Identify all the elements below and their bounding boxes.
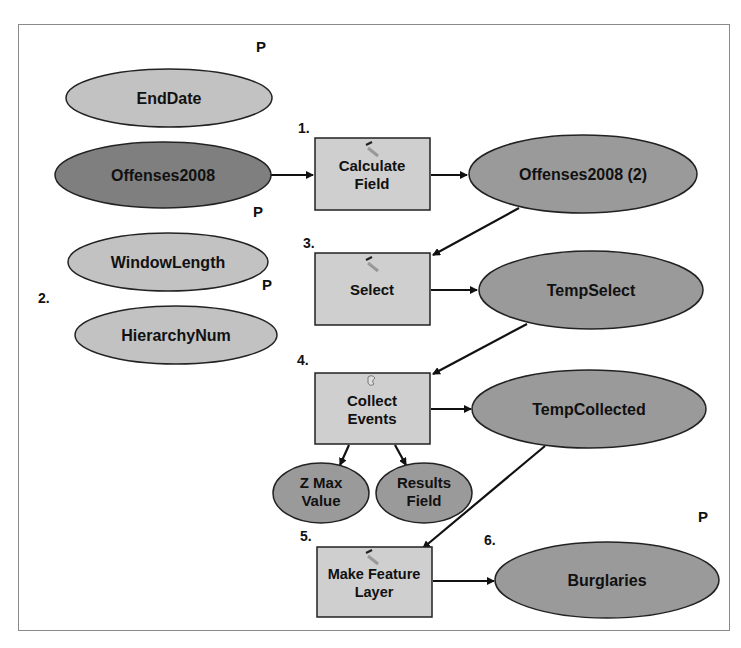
edge-collect-to-zmax <box>340 445 349 465</box>
tool-label-line2: Layer <box>355 584 394 600</box>
tool-make-feature-layer[interactable]: Make Feature Layer <box>317 547 432 617</box>
node-offenses2008[interactable]: Offenses2008 <box>55 142 271 208</box>
edge-tempselect-to-collect <box>433 324 527 374</box>
node-label: TempSelect <box>547 282 636 299</box>
node-label-line1: Results <box>397 474 451 491</box>
step-label-4: 4. <box>297 352 309 368</box>
node-temp-collected[interactable]: TempCollected <box>472 370 706 448</box>
edge-offenses2-to-select <box>433 208 519 255</box>
node-hierarchy-num[interactable]: HierarchyNum <box>75 306 277 364</box>
node-window-length[interactable]: WindowLength <box>68 233 268 291</box>
node-label: HierarchyNum <box>121 327 230 344</box>
step-label-3: 3. <box>303 235 315 251</box>
node-burglaries[interactable]: Burglaries <box>495 542 719 618</box>
step-label-2: 2. <box>38 290 50 306</box>
node-label: Offenses2008 <box>111 167 215 184</box>
parameter-marker-burglaries: P <box>698 508 708 525</box>
node-results-field[interactable]: Results Field <box>376 463 472 523</box>
step-label-1: 1. <box>298 120 310 136</box>
tool-select[interactable]: Select <box>315 253 430 325</box>
tool-label-line2: Events <box>347 410 396 427</box>
tool-label-line2: Field <box>354 175 389 192</box>
node-z-max-value[interactable]: Z Max Value <box>273 463 369 523</box>
node-label: EndDate <box>137 90 202 107</box>
node-offenses2008-2[interactable]: Offenses2008 (2) <box>469 135 697 213</box>
parameter-marker-offenses2008: P <box>253 203 263 220</box>
node-end-date[interactable]: EndDate <box>66 69 272 127</box>
tool-label-line1: Collect <box>347 392 397 409</box>
parameter-marker-window-length: P <box>262 276 272 293</box>
tool-label-line1: Calculate <box>339 157 406 174</box>
parameter-marker-end-date: P <box>256 38 266 55</box>
model-diagram: EndDate Offenses2008 WindowLength Hierar… <box>0 0 741 648</box>
node-label: Offenses2008 (2) <box>519 166 647 183</box>
node-label: TempCollected <box>532 401 646 418</box>
step-label-6: 6. <box>484 532 496 548</box>
node-label-line2: Value <box>301 492 340 509</box>
node-temp-select[interactable]: TempSelect <box>479 251 703 329</box>
node-label: WindowLength <box>111 254 226 271</box>
edge-collect-to-results <box>395 445 406 465</box>
tool-label: Select <box>350 281 394 298</box>
node-label-line1: Z Max <box>300 474 343 491</box>
tool-label-line1: Make Feature <box>328 566 421 582</box>
tool-collect-events[interactable]: Collect Events <box>315 373 430 444</box>
step-label-5: 5. <box>300 528 312 544</box>
node-label: Burglaries <box>567 572 646 589</box>
node-label-line2: Field <box>406 492 441 509</box>
tool-calculate-field[interactable]: Calculate Field <box>315 138 430 210</box>
